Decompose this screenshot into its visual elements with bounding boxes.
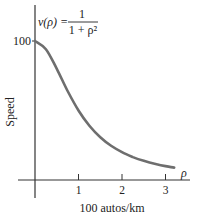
formula-numerator: 1 [79,7,85,21]
x-tick-label-3: 3 [163,184,169,196]
speed-curve [35,41,174,168]
x-axis-label: 100 autos/km [80,201,146,215]
x-tick-label-1: 1 [76,184,82,196]
chart: 100 1 2 3 ρ 100 autos/km Speed v(ρ) = 1 … [0,0,197,216]
y-axis-label: Speed [3,97,17,126]
x-axis-symbol: ρ [180,166,187,180]
formula-lhs: v(ρ) = [38,15,68,29]
formula-denominator: 1 + ρ² [69,23,98,37]
y-tick-label-100: 100 [13,34,31,48]
x-tick-label-2: 2 [119,184,125,196]
